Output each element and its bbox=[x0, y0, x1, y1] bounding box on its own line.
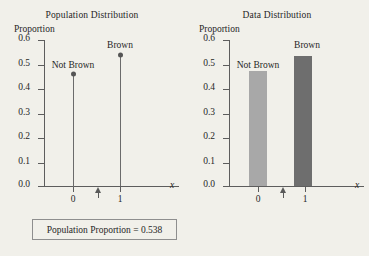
data-distribution-panel: Data Distribution Proportion 0.6 0.5 0.4… bbox=[185, 0, 369, 256]
plot-area-data: 0.6 0.5 0.4 0.3 0.2 0.1 0.0 0 1 bbox=[229, 40, 349, 187]
x-axis-label-data: x bbox=[355, 180, 359, 190]
y-tick-0.4: 0.4 bbox=[38, 89, 44, 90]
plot-area-population: 0.6 0.5 0.4 0.3 0.2 0.1 0.0 0 bbox=[44, 40, 164, 187]
y-tick-label: 0.2 bbox=[203, 131, 215, 141]
bar-label-not-brown: Not Brown bbox=[237, 60, 280, 70]
y-tick-label: 0.3 bbox=[203, 107, 215, 117]
y-tick-0.3: 0.3 bbox=[38, 114, 44, 115]
x-tick-0 bbox=[73, 186, 74, 192]
x-tick-label: 1 bbox=[118, 194, 123, 204]
y-tick-label: 0.6 bbox=[203, 33, 215, 43]
bar-brown bbox=[294, 56, 312, 186]
y-tick-label: 0.4 bbox=[203, 82, 215, 92]
y-axis-line-data bbox=[229, 40, 230, 187]
y-tick-0.6: 0.6 bbox=[38, 40, 44, 41]
data-point-not-brown bbox=[71, 71, 76, 76]
mean-marker-stem bbox=[283, 193, 284, 198]
y-tick-0.3: 0.3 bbox=[223, 114, 229, 115]
panel-title-data: Data Distribution bbox=[185, 10, 369, 20]
population-distribution-panel: Population Distribution Proportion 0.6 0… bbox=[0, 0, 184, 256]
needle-brown bbox=[120, 55, 121, 186]
x-tick-label: 0 bbox=[71, 194, 76, 204]
bar-not-brown bbox=[249, 71, 267, 186]
y-tick-label: 0.3 bbox=[18, 107, 30, 117]
y-tick-label: 0.0 bbox=[18, 179, 30, 189]
y-tick-0.1: 0.1 bbox=[38, 163, 44, 164]
x-tick-0 bbox=[258, 186, 259, 192]
data-point-brown bbox=[118, 53, 123, 58]
x-tick-label: 0 bbox=[256, 194, 261, 204]
x-axis-line-data bbox=[229, 186, 364, 187]
y-tick-0.2: 0.2 bbox=[223, 138, 229, 139]
y-tick-0.5: 0.5 bbox=[38, 65, 44, 66]
y-tick-0.0: 0.0 bbox=[223, 186, 229, 187]
bar-label-brown: Brown bbox=[294, 40, 320, 50]
y-tick-label: 0.1 bbox=[18, 156, 30, 166]
y-tick-0.5: 0.5 bbox=[223, 65, 229, 66]
x-tick-label: 1 bbox=[303, 194, 308, 204]
y-tick-label: 0.2 bbox=[18, 131, 30, 141]
x-tick-1 bbox=[305, 186, 306, 192]
x-axis-line-population bbox=[44, 186, 179, 187]
statistics-figure: Population Distribution Proportion 0.6 0… bbox=[0, 0, 369, 256]
y-tick-label: 0.0 bbox=[203, 179, 215, 189]
mean-marker-stem bbox=[98, 193, 99, 198]
series-label-brown: Brown bbox=[107, 40, 133, 50]
x-axis-label-population: x bbox=[170, 180, 174, 190]
y-tick-label: 0.6 bbox=[18, 33, 30, 43]
y-tick-label: 0.5 bbox=[203, 58, 215, 68]
series-label-not-brown: Not Brown bbox=[52, 60, 95, 70]
y-tick-0.1: 0.1 bbox=[223, 163, 229, 164]
needle-not-brown bbox=[73, 74, 74, 187]
y-tick-0.6: 0.6 bbox=[223, 40, 229, 41]
y-tick-0.0: 0.0 bbox=[38, 186, 44, 187]
y-axis-line-population bbox=[44, 40, 45, 187]
panel-title-population: Population Distribution bbox=[0, 10, 184, 20]
y-tick-label: 0.1 bbox=[203, 156, 215, 166]
y-tick-label: 0.5 bbox=[18, 58, 30, 68]
caption-population-proportion: Population Proportion = 0.538 bbox=[32, 219, 177, 240]
y-tick-label: 0.4 bbox=[18, 82, 30, 92]
x-tick-1 bbox=[120, 186, 121, 192]
y-tick-0.2: 0.2 bbox=[38, 138, 44, 139]
y-tick-0.4: 0.4 bbox=[223, 89, 229, 90]
